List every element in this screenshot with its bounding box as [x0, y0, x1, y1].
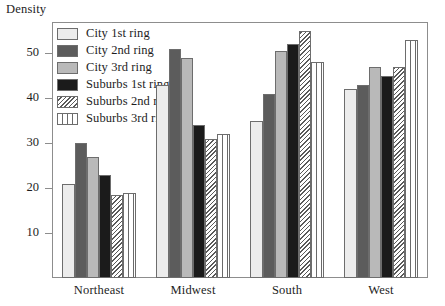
- bar-west-suburbs-3rd-ring[interactable]: [405, 40, 417, 278]
- y-axis-tick-label: 50: [27, 45, 40, 60]
- bar-west-city-1st-ring[interactable]: [344, 89, 356, 278]
- legend-item-label: City 3rd ring: [86, 60, 152, 75]
- bar-south-suburbs-1st-ring[interactable]: [287, 44, 299, 278]
- legend-swatch-icon: [57, 113, 78, 125]
- x-axis-label-west: West: [321, 283, 441, 298]
- legend-item-city-3rd-ring[interactable]: City 3rd ring: [57, 60, 174, 75]
- bar-midwest-suburbs-1st-ring[interactable]: [193, 125, 205, 278]
- bar-midwest-city-3rd-ring[interactable]: [181, 58, 193, 278]
- bar-midwest-suburbs-3rd-ring[interactable]: [217, 134, 229, 278]
- bar-south-suburbs-2nd-ring[interactable]: [299, 31, 311, 278]
- legend-swatch-icon: [57, 62, 78, 74]
- bar-midwest-city-2nd-ring[interactable]: [169, 49, 181, 278]
- legend-swatch-icon: [57, 28, 78, 40]
- y-axis-tick-label: 20: [27, 180, 40, 195]
- bar-northeast-suburbs-1st-ring[interactable]: [99, 175, 111, 278]
- y-axis-tick-mark: [45, 143, 53, 144]
- bar-south-city-2nd-ring[interactable]: [263, 94, 275, 278]
- bar-south-city-3rd-ring[interactable]: [275, 51, 287, 278]
- bar-northeast-suburbs-3rd-ring[interactable]: [123, 193, 135, 278]
- bar-midwest-city-1st-ring[interactable]: [156, 85, 168, 278]
- bar-west-city-2nd-ring[interactable]: [357, 85, 369, 278]
- legend-item-city-1st-ring[interactable]: City 1st ring: [57, 26, 174, 41]
- y-axis-tick-mark: [45, 188, 53, 189]
- bar-northeast-city-3rd-ring[interactable]: [87, 157, 99, 278]
- bar-south-suburbs-3rd-ring[interactable]: [311, 62, 323, 278]
- y-axis-tick-label: 40: [27, 90, 40, 105]
- y-axis-tick-mark: [45, 53, 53, 54]
- bar-west-suburbs-2nd-ring[interactable]: [393, 67, 405, 278]
- y-axis-title: Density: [6, 2, 46, 17]
- bar-northeast-suburbs-2nd-ring[interactable]: [111, 195, 123, 278]
- density-bar-chart: Density 5040302010 City 1st ringCity 2nd…: [0, 0, 445, 306]
- bar-south-city-1st-ring[interactable]: [250, 121, 262, 278]
- bar-west-suburbs-1st-ring[interactable]: [381, 76, 393, 278]
- legend-swatch-icon: [57, 79, 78, 91]
- y-axis-tick-mark: [45, 233, 53, 234]
- bar-midwest-suburbs-2nd-ring[interactable]: [205, 139, 217, 278]
- legend-item-label: City 2nd ring: [86, 43, 154, 58]
- y-axis-tick-label: 30: [27, 135, 40, 150]
- legend-swatch-icon: [57, 96, 78, 108]
- y-axis-tick-label: 10: [27, 225, 40, 240]
- legend-item-label: City 1st ring: [86, 26, 150, 41]
- bar-northeast-city-1st-ring[interactable]: [62, 184, 74, 278]
- bar-northeast-city-2nd-ring[interactable]: [75, 143, 87, 278]
- bar-west-city-3rd-ring[interactable]: [369, 67, 381, 278]
- legend-swatch-icon: [57, 45, 78, 57]
- legend-item-city-2nd-ring[interactable]: City 2nd ring: [57, 43, 174, 58]
- y-axis-tick-mark: [45, 98, 53, 99]
